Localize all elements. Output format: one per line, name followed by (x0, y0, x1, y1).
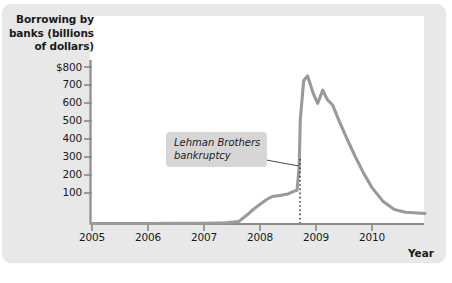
annotation-lehman-brothers-bankruptcy: Lehman Brothers bankruptcy (166, 132, 267, 167)
figure-container: Borrowing by banks (billions of dollars)… (0, 0, 452, 283)
